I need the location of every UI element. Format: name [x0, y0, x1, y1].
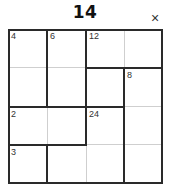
cage-border	[46, 29, 48, 107]
grid-cell[interactable]	[86, 145, 124, 184]
grid-cell[interactable]	[124, 107, 163, 145]
grid-cell[interactable]	[47, 68, 86, 107]
grid-cell[interactable]: 24	[86, 107, 124, 145]
grid-cell[interactable]: 6	[47, 29, 86, 68]
grid-cell[interactable]	[47, 145, 86, 184]
cage-clue: 2	[11, 109, 16, 119]
grid-cell[interactable]	[124, 145, 163, 184]
puzzle-title: 14	[0, 2, 170, 22]
grid-cell[interactable]: 12	[86, 29, 124, 68]
cage-border	[46, 145, 48, 184]
cage-border	[8, 106, 125, 108]
grid-cell[interactable]	[8, 68, 47, 107]
cage-border	[85, 67, 163, 69]
close-icon[interactable]: ×	[148, 11, 162, 25]
grid-cell[interactable]: 8	[124, 68, 163, 107]
puzzle-grid: 4 6 12 8 2 24 3	[8, 29, 163, 184]
cage-border	[161, 29, 163, 184]
cage-border	[8, 144, 87, 146]
cage-clue: 12	[89, 31, 99, 41]
grid-cell[interactable]	[124, 29, 163, 68]
grid-cell[interactable]	[86, 68, 124, 107]
cage-clue: 3	[11, 147, 16, 157]
cage-border	[85, 29, 87, 145]
cage-clue: 24	[89, 109, 99, 119]
cage-clue: 8	[127, 70, 132, 80]
cage-border	[123, 68, 125, 184]
cage-clue: 4	[11, 31, 16, 41]
grid-cell[interactable]	[47, 107, 86, 145]
grid-cell[interactable]: 4	[8, 29, 47, 68]
grid-cell[interactable]: 3	[8, 145, 47, 184]
cage-border	[8, 182, 163, 184]
cage-clue: 6	[50, 31, 55, 41]
grid-cell[interactable]: 2	[8, 107, 47, 145]
